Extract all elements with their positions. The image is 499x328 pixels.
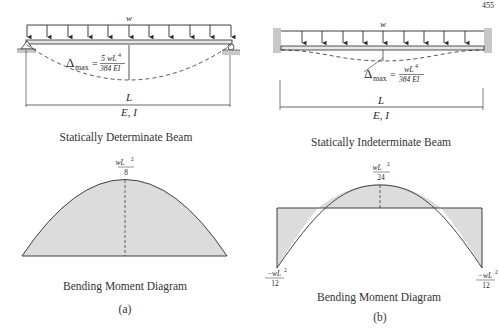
right-end-moment-label: −wL 2 12 bbox=[476, 269, 498, 290]
beam-caption: Statically Determinate Beam bbox=[60, 131, 193, 144]
fixed-support-right-icon bbox=[484, 28, 492, 53]
panel-a-beam: Δ max = 5 wL 4 384 EI w L E, I Staticall… bbox=[17, 13, 240, 144]
svg-text:12: 12 bbox=[482, 281, 490, 290]
subfigure-label-b: (b) bbox=[373, 311, 387, 324]
svg-text:=: = bbox=[390, 69, 396, 80]
midspan-moment-label: wL 2 24 bbox=[372, 161, 390, 182]
load-arrows bbox=[27, 25, 231, 37]
subfigure-label-a: (a) bbox=[119, 303, 132, 316]
page-number: 455 bbox=[482, 1, 494, 10]
svg-text:384 EI: 384 EI bbox=[398, 75, 420, 84]
fixed-support-left-icon bbox=[273, 28, 281, 53]
deflection-curve bbox=[281, 50, 484, 61]
svg-text:5 wL: 5 wL bbox=[101, 54, 117, 63]
figure-canvas: 455 bbox=[0, 0, 499, 328]
svg-text:−wL: −wL bbox=[267, 269, 281, 278]
span-label: L bbox=[377, 94, 384, 106]
beam bbox=[26, 40, 232, 44]
svg-text:Δ: Δ bbox=[66, 55, 74, 70]
beam-caption: Statically Indeterminate Beam bbox=[311, 136, 451, 149]
svg-text:24: 24 bbox=[377, 173, 385, 182]
svg-text:2: 2 bbox=[284, 267, 287, 273]
svg-text:12: 12 bbox=[271, 279, 279, 288]
span-label: L bbox=[125, 91, 132, 103]
moment-caption: Bending Moment Diagram bbox=[63, 280, 187, 293]
svg-text:2: 2 bbox=[131, 156, 134, 162]
svg-text:=: = bbox=[92, 58, 98, 69]
svg-text:8: 8 bbox=[124, 168, 128, 177]
panel-b-beam: Δ max = wL 4 384 EI w L E, I Statically … bbox=[273, 19, 492, 149]
beam bbox=[281, 46, 484, 50]
moment-parabola bbox=[22, 180, 227, 257]
moment-caption: Bending Moment Diagram bbox=[317, 291, 441, 304]
deflection-formula: Δ max = 5 wL 4 384 EI bbox=[66, 52, 125, 73]
max-moment-label: wL 2 8 bbox=[115, 156, 134, 177]
load-label: w bbox=[126, 13, 132, 23]
svg-text:−wL: −wL bbox=[478, 271, 492, 280]
svg-text:Δ: Δ bbox=[364, 66, 372, 81]
svg-text:2: 2 bbox=[387, 161, 390, 167]
deflection-formula: Δ max = wL 4 384 EI bbox=[364, 63, 424, 84]
svg-text:2: 2 bbox=[495, 269, 498, 275]
property-label: E, I bbox=[372, 109, 390, 121]
svg-text:max: max bbox=[373, 74, 387, 83]
svg-text:4: 4 bbox=[118, 52, 121, 58]
panel-a-moment-diagram: wL 2 8 Bending Moment Diagram (a) bbox=[22, 156, 227, 316]
svg-text:wL: wL bbox=[404, 65, 414, 74]
svg-text:wL: wL bbox=[372, 163, 381, 172]
load-arrows bbox=[302, 31, 465, 43]
load-label: w bbox=[380, 19, 386, 29]
svg-text:384 EI: 384 EI bbox=[99, 64, 121, 73]
panel-b-moment-diagram: wL 2 24 −wL 2 12 −wL 2 12 Bending Moment… bbox=[265, 161, 498, 324]
property-label: E, I bbox=[120, 106, 138, 118]
positive-moment-region bbox=[318, 184, 441, 208]
svg-text:max: max bbox=[75, 63, 89, 72]
left-end-moment-label: −wL 2 12 bbox=[265, 267, 287, 288]
svg-text:4: 4 bbox=[415, 63, 418, 69]
svg-text:wL: wL bbox=[115, 158, 124, 167]
